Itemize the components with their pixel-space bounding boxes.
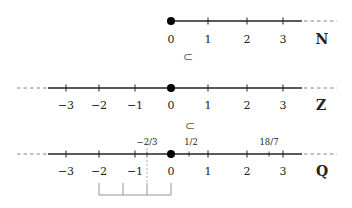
label-3: 3: [280, 33, 287, 46]
set-symbol-integers: Z: [316, 97, 326, 113]
label-2: 2: [244, 165, 251, 178]
label-neg3: −3: [58, 165, 74, 178]
label-1: 1: [205, 33, 212, 46]
label-neg1: −1: [127, 99, 143, 112]
label-one-half: 1/2: [184, 137, 198, 147]
label-neg2: −2: [91, 99, 107, 112]
origin-point: [167, 150, 175, 158]
label-2: 2: [244, 99, 251, 112]
label-2: 2: [244, 33, 251, 46]
label-3: 3: [280, 99, 287, 112]
label-1: 1: [205, 99, 212, 112]
subset-symbol: ⊂: [185, 119, 195, 133]
set-symbol-naturals: N: [316, 31, 329, 47]
origin-point: [167, 84, 175, 92]
naturals-number-line: 0 1 2 3 N: [167, 17, 337, 47]
label-3: 3: [280, 165, 287, 178]
rationals-number-line: −2/3 1/2 18/7 −3 −2 −1 0 1 2 3 Q: [17, 137, 337, 195]
set-symbol-rationals: Q: [316, 163, 328, 179]
label-neg3: −3: [58, 99, 74, 112]
number-sets-diagram: 0 1 2 3 N ⊂ −3 −2 −1 0 1 2 3 Z ⊂: [0, 0, 352, 208]
integers-number-line: −3 −2 −1 0 1 2 3 Z: [17, 84, 337, 113]
label-neg-two-thirds: −2/3: [137, 137, 158, 147]
subset-symbol: ⊂: [183, 50, 193, 64]
label-neg2: −2: [91, 165, 107, 178]
label-0: 0: [168, 33, 175, 46]
label-0: 0: [168, 99, 175, 112]
thirds-bracket: [99, 183, 171, 195]
label-1: 1: [205, 165, 212, 178]
label-0: 0: [168, 165, 175, 178]
label-eighteen-sevenths: 18/7: [259, 137, 278, 147]
origin-point: [167, 17, 175, 25]
label-neg1: −1: [127, 165, 143, 178]
